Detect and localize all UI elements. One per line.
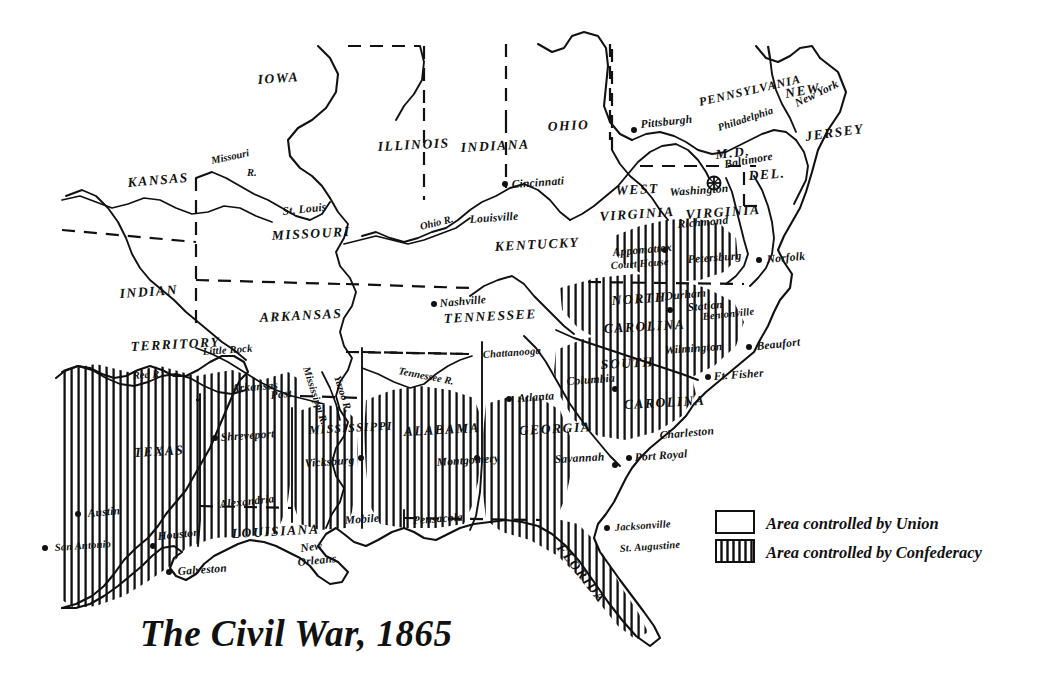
page-title: The Civil War, 1865: [140, 613, 452, 654]
city-dot-houston: [150, 543, 156, 549]
state-label-kentucky: KENTUCKY: [493, 235, 580, 254]
city-dot-vicksburg: [358, 455, 364, 461]
river-label-ohio-r: Ohio R.: [419, 213, 454, 232]
city-label-charleston: Charleston: [659, 424, 714, 441]
city-dot-ft-fisher: [705, 374, 711, 380]
city-label-st-augustine: St. Augustine: [619, 539, 680, 554]
missouri-arkansas-line: [196, 280, 340, 284]
state-label-jersey: JERSEY: [803, 121, 865, 144]
state-label-carolina: CAROLINA: [623, 393, 706, 412]
city-dot-pittsburgh: [631, 127, 637, 133]
legend-label-union: Area controlled by Union: [765, 514, 939, 533]
state-label-del: DEL.: [747, 165, 786, 183]
city-dot-jacksonville: [604, 525, 610, 531]
city-dot-columbia: [612, 386, 618, 392]
city-dot-norfolk: [756, 257, 762, 263]
city-label-new: New: [299, 539, 323, 554]
confederacy-swatch: [716, 540, 754, 562]
city-label-nashville: Nashville: [438, 293, 486, 309]
city-label-louisville: Louisville: [468, 210, 518, 225]
state-label-illinois: ILLINOIS: [376, 135, 450, 154]
city-label-post: Post: [270, 387, 293, 401]
city-dot-cincinnati: [502, 181, 508, 187]
city-dot-austin: [75, 511, 81, 517]
city-dot-atlanta: [506, 396, 512, 402]
river-label-red-r: Red R.: [131, 368, 162, 381]
illinois-indiana-lower: [396, 46, 424, 120]
union-swatch: [716, 511, 754, 533]
confederate-controlled-areas: [60, 218, 744, 640]
city-label-orleans: Orleans: [297, 552, 337, 568]
city-label-jacksonville: Jacksonville: [613, 518, 671, 533]
city-label-savannah: Savannah: [554, 450, 604, 465]
state-label-indian: INDIAN: [118, 282, 178, 301]
new-york-pennsylvania-line: [768, 46, 770, 58]
missouri-river-line: [62, 196, 272, 222]
delmarva-peninsula: [750, 176, 774, 286]
state-label-arkansas: ARKANSAS: [258, 306, 342, 325]
civil-war-map-page: IOWAILLINOISINDIANAOHIOPENNSYLVANIANEWJE…: [0, 0, 1064, 674]
legend-label-confederacy: Area controlled by Confederacy: [765, 543, 983, 562]
state-label-iowa: IOWA: [256, 69, 299, 87]
state-label-south: SOUTH: [600, 354, 654, 372]
city-dot-durham: [667, 307, 673, 313]
river-label-missouri: Missouri: [209, 147, 250, 166]
city-label-little-rock: Little Rock: [201, 343, 253, 358]
state-label-georgia: GEORGIA: [518, 419, 591, 438]
city-dot-port-royal: [626, 455, 632, 461]
kansas-nebraska-line: [62, 230, 196, 242]
city-dot-shreveport: [212, 435, 218, 441]
state-label-tennessee: TENNESSEE: [443, 306, 537, 326]
city-label-mobile: Mobile: [343, 512, 379, 526]
city-label-port-royal: Port Royal: [634, 447, 688, 464]
river-label-r: R.: [246, 167, 257, 178]
state-label-missouri: MISSOURI: [270, 224, 351, 243]
city-label-galveston: Galveston: [177, 562, 227, 577]
map-canvas: IOWAILLINOISINDIANAOHIOPENNSYLVANIANEWJE…: [0, 0, 1064, 674]
city-label-ft-fisher: Ft. Fisher: [712, 367, 764, 383]
city-dot-savannah: [612, 462, 618, 468]
city-dot-beaufort: [746, 344, 752, 350]
river-label-tennessee-r: Tennessee R.: [398, 365, 455, 387]
kentucky-tennessee-line: [346, 284, 470, 288]
state-label-ohio: OHIO: [547, 117, 589, 134]
city-dot-nashville: [431, 301, 437, 307]
city-label-chattanooga: Chattanooga: [482, 345, 541, 360]
ohio-river-border: [362, 184, 570, 242]
lake-ontario-coast: [756, 46, 820, 62]
arkansas-mississippi-line: [300, 396, 362, 398]
state-label-texas: TEXAS: [133, 442, 184, 460]
city-label-philadelphia: Philadelphia: [716, 105, 774, 133]
state-label-kansas: KANSAS: [126, 170, 189, 190]
state-label-west: WEST: [615, 181, 659, 198]
city-label-atlanta: Atlanta: [516, 389, 554, 404]
city-label-pittsburgh: Pittsburgh: [640, 113, 693, 131]
city-label-cincinnati: Cincinnati: [511, 174, 565, 190]
map-legend: Area controlled by Union Area controlled…: [716, 511, 983, 562]
city-dot-galveston: [166, 569, 172, 575]
state-label-indiana: INDIANA: [459, 136, 530, 155]
city-dot-san-antonio: [42, 545, 48, 551]
chesapeake-bay: [726, 178, 748, 284]
city-label-washington: Washington: [669, 182, 728, 199]
